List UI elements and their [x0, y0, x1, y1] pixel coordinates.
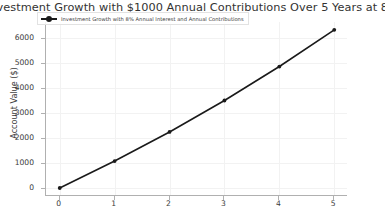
legend-entry-label: Investment Growth with 8% Annual Interes… [61, 16, 244, 22]
x-tick-label: 1 [102, 199, 126, 208]
x-tick-label: 0 [47, 199, 71, 208]
data-point-marker [58, 186, 62, 190]
x-tick-label: 2 [157, 199, 181, 208]
x-tick-mark [223, 196, 224, 200]
chart-figure: Investment Growth with $1000 Annual Cont… [0, 0, 385, 216]
x-tick-mark [114, 196, 115, 200]
data-point-marker [277, 65, 281, 69]
y-tick-label: 0 [4, 184, 34, 192]
x-tick-mark [59, 196, 60, 200]
legend-line-marker-icon [41, 14, 57, 23]
y-tick-label: 3000 [4, 109, 34, 117]
plot-area [45, 22, 347, 196]
x-tick-mark [169, 196, 170, 200]
y-tick-label: 2000 [4, 134, 34, 142]
y-tick-label: 5000 [4, 59, 34, 67]
x-tick-label: 5 [321, 199, 345, 208]
data-point-marker [168, 130, 172, 134]
x-tick-mark [333, 196, 334, 200]
data-point-marker [332, 28, 336, 32]
y-tick-label: 4000 [4, 84, 34, 92]
chart-legend: Investment Growth with 8% Annual Interes… [37, 12, 249, 25]
x-tick-label: 4 [266, 199, 290, 208]
y-tick-label: 6000 [4, 34, 34, 42]
x-tick-label: 3 [211, 199, 235, 208]
y-tick-label: 1000 [4, 159, 34, 167]
data-series-line [46, 22, 348, 196]
data-point-marker [223, 99, 227, 103]
data-point-marker [113, 159, 117, 163]
x-tick-mark [278, 196, 279, 200]
series-line [60, 30, 335, 188]
